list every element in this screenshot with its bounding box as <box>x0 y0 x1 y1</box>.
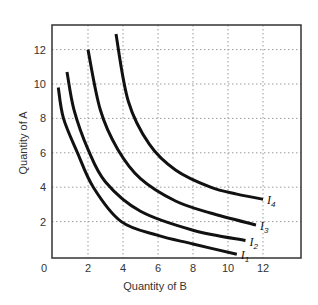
curve-label-i2: I2 <box>249 235 259 251</box>
y-tick-label: 4 <box>40 181 46 193</box>
curve-i1 <box>58 87 237 254</box>
y-tick-label: 12 <box>34 44 46 56</box>
curve-label-sub: 1 <box>245 255 249 264</box>
indifference-curve-chart: 024681012 24681012 Quantity of B Quantit… <box>0 0 318 305</box>
x-tick-label: 8 <box>190 262 196 274</box>
x-tick-label: 10 <box>222 262 234 274</box>
curve-i3 <box>88 50 256 225</box>
curve-label-sub: 2 <box>253 242 259 251</box>
y-axis-ticks: 24681012 <box>34 44 46 228</box>
x-tick-label: 0 <box>41 262 47 274</box>
y-axis-title: Quantity of A <box>17 111 29 175</box>
x-tick-label: 2 <box>85 262 91 274</box>
curve-label-sub: 3 <box>264 226 269 235</box>
y-tick-label: 2 <box>40 216 46 228</box>
curve-labels: I1I2I3I4 <box>240 193 276 264</box>
curve-label-i4: I4 <box>266 193 276 209</box>
curve-label-sub: 4 <box>271 200 276 209</box>
y-tick-label: 6 <box>40 147 46 159</box>
x-tick-label: 4 <box>120 262 126 274</box>
x-tick-label: 12 <box>257 262 269 274</box>
y-tick-label: 8 <box>40 112 46 124</box>
x-axis-title: Quantity of B <box>123 280 187 292</box>
curve-label-i1: I1 <box>240 248 249 264</box>
x-axis-ticks: 024681012 <box>41 262 269 274</box>
x-tick-label: 6 <box>155 262 161 274</box>
y-tick-label: 10 <box>34 78 46 90</box>
